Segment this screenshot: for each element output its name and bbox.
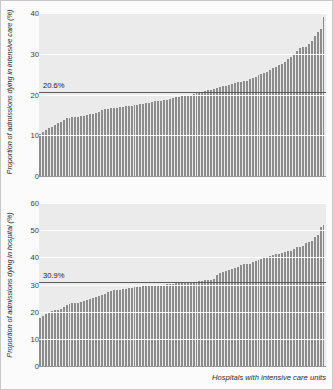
y-tick-label: 60 — [9, 199, 39, 208]
plot-area-top — [39, 13, 326, 176]
reference-line-top — [39, 92, 326, 93]
y-tick-label: 10 — [9, 334, 39, 343]
chart-panel-top: Proportion of admissions dying in intens… — [1, 3, 333, 195]
gridline — [39, 203, 326, 204]
gridline — [39, 54, 326, 55]
reference-line-label-top: 20.6% — [43, 81, 65, 90]
y-tick-label: 40 — [9, 253, 39, 262]
y-tick-label: 0 — [9, 362, 39, 371]
y-tick-label: 50 — [9, 226, 39, 235]
bar — [323, 225, 326, 366]
gridline — [39, 285, 326, 286]
plot-area-bottom — [39, 203, 326, 366]
y-tick-label: 30 — [9, 49, 39, 58]
gridline — [39, 13, 326, 14]
x-axis-baseline-top — [39, 176, 326, 177]
figure-container: Proportion of admissions dying in intens… — [0, 0, 333, 390]
reference-line-label-bottom: 30.9% — [43, 271, 65, 280]
x-axis-title: Hospitals with intensive care units — [212, 373, 326, 382]
gridline — [39, 135, 326, 136]
y-axis-bottom: 0102030405060 — [1, 195, 39, 389]
bar — [323, 17, 326, 176]
gridline — [39, 339, 326, 340]
y-tick-label: 20 — [9, 307, 39, 316]
y-axis-top: 010203040 — [1, 3, 39, 195]
reference-line-bottom — [39, 282, 326, 283]
gridline — [39, 312, 326, 313]
y-tick-label: 0 — [9, 172, 39, 181]
chart-panel-bottom: Proportion of admissions dying in hospit… — [1, 195, 333, 389]
y-tick-label: 40 — [9, 9, 39, 18]
x-axis-baseline-bottom — [39, 366, 326, 367]
y-tick-label: 20 — [9, 90, 39, 99]
gridline — [39, 230, 326, 231]
y-tick-label: 30 — [9, 280, 39, 289]
gridline — [39, 257, 326, 258]
gridline — [39, 95, 326, 96]
y-tick-label: 10 — [9, 131, 39, 140]
